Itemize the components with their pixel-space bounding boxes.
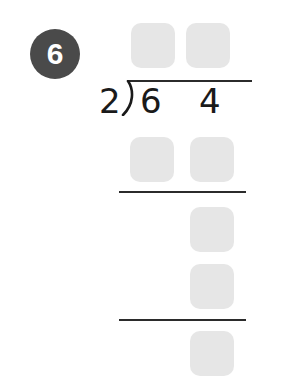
product1-tens-box[interactable] — [130, 137, 174, 182]
problem-number-badge: 6 — [30, 29, 80, 79]
remainder-box[interactable] — [190, 331, 234, 376]
dividend-tens-digit: 6 — [140, 84, 162, 118]
product1-ones-box[interactable] — [190, 137, 234, 182]
quotient-tens-box[interactable] — [131, 23, 175, 68]
product2-ones-box[interactable] — [190, 264, 234, 309]
subtraction-line-2 — [119, 319, 246, 321]
dividend-ones-digit: 4 — [199, 84, 221, 118]
division-bracket-icon — [120, 80, 134, 116]
quotient-ones-box[interactable] — [186, 23, 230, 68]
bringdown-box[interactable] — [190, 207, 234, 252]
subtraction-line-1 — [119, 191, 246, 193]
divisor: 2 — [99, 84, 121, 118]
